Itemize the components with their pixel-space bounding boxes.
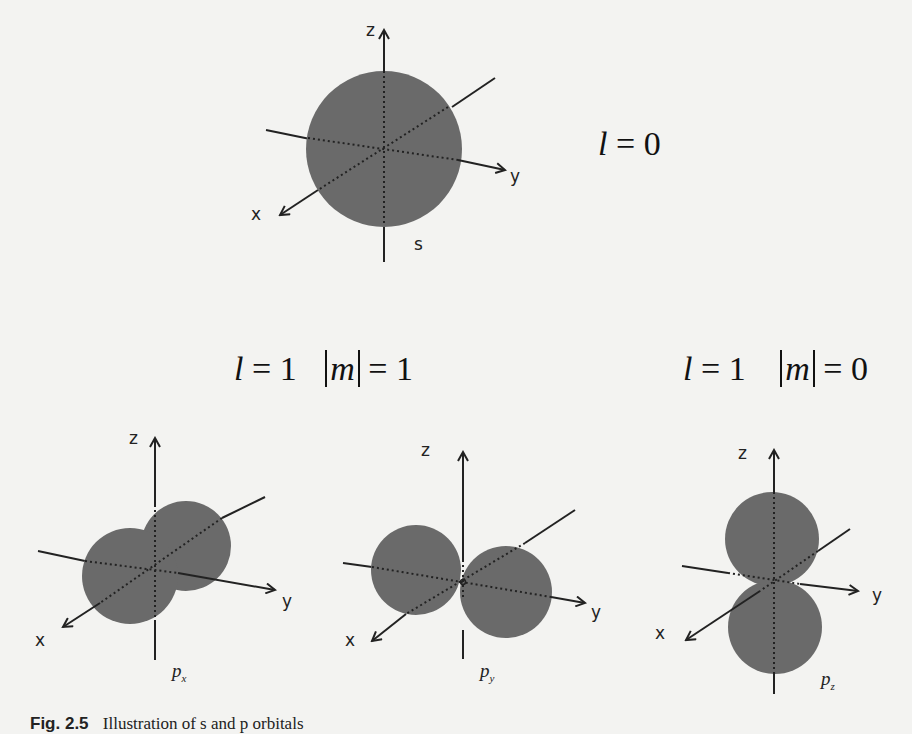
s-orbital — [266, 30, 505, 262]
y-axis-arrow — [458, 160, 505, 170]
pz-x-axis-label: x — [655, 623, 665, 643]
figure-caption: Fig. 2.5 Illustration of s and p orbital… — [30, 714, 304, 734]
px-orbital — [38, 438, 275, 660]
m-abs-symbol: m — [780, 350, 815, 387]
l-value: = 0 — [616, 125, 661, 162]
l1-m0-label: l = 1 m = 0 — [683, 350, 868, 388]
py-lobe-right — [460, 546, 552, 638]
pz-orbital-name: pz — [821, 668, 835, 692]
x-axis-arrow — [280, 190, 318, 215]
px-y-axis-label: y — [282, 591, 292, 611]
caption-text: Illustration of s and p orbitals — [103, 714, 304, 733]
x-axis-back — [452, 78, 495, 107]
pz-y-axis-label: y — [872, 585, 882, 605]
px-z-axis-label: z — [129, 428, 138, 448]
pz-z-axis-label: z — [738, 443, 747, 463]
pz-orbital — [682, 450, 858, 694]
m-value: = 1 — [368, 350, 413, 387]
l-value: = 1 — [252, 350, 297, 387]
l0-label: l = 0 — [598, 125, 661, 163]
pz-lobe-top — [725, 492, 819, 586]
y-axis-back — [266, 130, 310, 139]
py-x-axis-label: x — [345, 630, 355, 650]
py-lobe-left — [371, 525, 461, 615]
s-orbital-name: s — [414, 234, 423, 254]
m-value: = 0 — [823, 350, 868, 387]
px-lobe-front — [82, 528, 178, 624]
l-symbol: l — [598, 125, 607, 162]
px-x-axis-label: x — [35, 630, 45, 650]
s-y-axis-label: y — [510, 166, 520, 186]
l-symbol: l — [683, 350, 692, 387]
l-value: = 1 — [701, 350, 746, 387]
caption-label: Fig. 2.5 — [30, 714, 89, 733]
l1-m1-label: l = 1 m = 1 — [234, 350, 413, 388]
py-orbital-name: py — [480, 660, 494, 684]
py-y-axis-label: y — [591, 602, 601, 622]
s-z-axis-label: z — [366, 20, 375, 40]
s-x-axis-label: x — [251, 204, 261, 224]
m-abs-symbol: m — [325, 350, 360, 387]
px-orbital-name: px — [172, 660, 186, 684]
py-z-axis-label: z — [421, 440, 430, 460]
l-symbol: l — [234, 350, 243, 387]
py-orbital — [343, 452, 585, 659]
